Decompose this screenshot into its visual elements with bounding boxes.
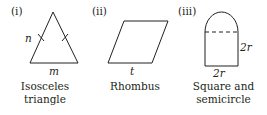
- rhombus-outline: [108, 21, 168, 63]
- caption-line: triangle: [0, 93, 90, 106]
- geometry-figure-panel: (i) (ii) (iii) n m t 2r 2r Isosceles tri…: [0, 0, 267, 115]
- square-and-semicircle-shape: [205, 12, 238, 66]
- rhombus-base-label: t: [130, 66, 134, 77]
- caption-line: Isosceles: [0, 80, 90, 93]
- caption-line: Rhombus: [92, 80, 178, 93]
- caption-isosceles-triangle: Isosceles triangle: [0, 80, 90, 106]
- caption-line: Square and: [180, 80, 267, 93]
- caption-line: semicircle: [180, 93, 267, 106]
- triangle-base-label: m: [49, 66, 59, 77]
- caption-rhombus: Rhombus: [92, 80, 178, 93]
- isosceles-triangle-shape: [30, 12, 78, 63]
- triangle-side-label: n: [25, 33, 32, 44]
- triangle-outline: [30, 12, 78, 63]
- square-base-label: 2r: [213, 68, 225, 79]
- square-semicircle-outline: [205, 12, 238, 66]
- square-height-label: 2r: [240, 42, 252, 53]
- figure-index-i: (i): [11, 6, 23, 17]
- figure-index-ii: (ii): [92, 6, 107, 17]
- rhombus-shape: [108, 21, 168, 63]
- caption-square-and-semicircle: Square and semicircle: [180, 80, 267, 106]
- figure-index-iii: (iii): [178, 6, 196, 17]
